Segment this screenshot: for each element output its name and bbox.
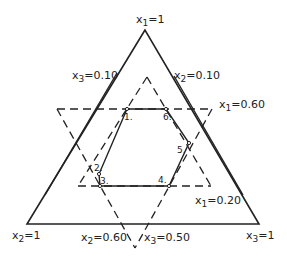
point-label-5: 5.: [177, 146, 186, 155]
label-x2-060: x2=0.60: [81, 232, 127, 243]
line-x3-050-b: [78, 77, 147, 186]
label-x1-020: x1=0.20: [195, 195, 241, 206]
line-x3-050: [135, 77, 147, 248]
label-x1-060: x1=0.60: [219, 99, 265, 110]
point-label-2: 2.: [94, 164, 103, 173]
point-label-6: 6.: [163, 113, 172, 122]
label-x2-010: x2=0.10: [174, 70, 220, 81]
label-x3-010: x3=0.10: [72, 70, 118, 81]
line-x3-050-d: [135, 109, 212, 248]
ternary-diagram: x1=1 x2=1 x3=1 x3=0.10 x2=0.10 x1=0.60 x…: [0, 0, 287, 260]
point-label-4: 4.: [158, 176, 167, 185]
feasible-region: [99, 109, 189, 186]
vertex-label-x2: x2=1: [12, 230, 40, 241]
point-label-3: 3.: [100, 177, 109, 186]
vertex-label-x3: x3=1: [246, 230, 274, 241]
point-label-1: 1.: [124, 113, 133, 122]
vertex-label-x1: x1=1: [136, 14, 164, 25]
label-x3-050: x3=0.50: [144, 232, 190, 243]
line-x2-060: [57, 109, 135, 248]
diagram-lines: [0, 0, 287, 260]
